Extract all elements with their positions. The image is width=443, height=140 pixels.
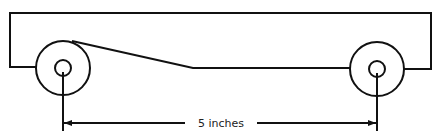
dimension-label: 5 inches <box>198 117 244 130</box>
wheelbase-diagram: 5 inches <box>0 0 443 140</box>
car-body <box>10 13 431 69</box>
body-underside <box>72 41 350 68</box>
dimension-line: 5 inches <box>64 117 376 130</box>
